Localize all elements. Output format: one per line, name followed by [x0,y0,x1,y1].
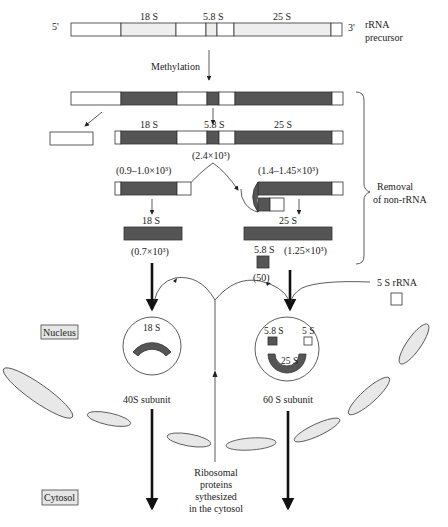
40s-subunit-label: 40S subunit [123,394,171,405]
segment-5-8s-label: 5.8 S [203,11,224,22]
three-prime-label: 3' [348,22,355,33]
40s-18s-label: 18 S [143,323,160,333]
protein-label-line2: proteins [200,479,232,490]
60s-5-8s-label: 5.8 S [264,326,284,336]
removed-leader-fragment [50,132,93,145]
intermediate-2-4k: 18 S 5.8 S 25 S (2.4×10³) [115,119,343,162]
removal-label-line1: Removal [377,181,413,192]
intermediate-size: (2.4×10³) [192,150,230,162]
mature-25s-size: (1.25×10³) [284,245,327,257]
5s-rrna-box [391,293,402,305]
60s-5s-label: 5 S [302,326,314,336]
5s-path-to-60s [291,282,370,302]
subunit-40s: 18 S [123,317,181,375]
mature-5-8s-rrna [257,256,269,268]
right-intermediate-hairpin [241,182,343,212]
mature-18s-rrna [124,227,182,240]
mature-18s-size: (0.7×10³) [131,246,169,258]
cytosol-label: Cytosol [44,492,75,503]
mature-25s-rrna [244,227,332,240]
removal-label-line2: of non-rRNA [373,194,427,205]
nuclear-envelope [0,320,433,451]
mature-18s-label: 18 S [142,215,160,226]
precursor-label-line2: precursor [365,32,403,43]
rrna-precursor: 5' 18 S 5.8 S 25 S 3' rRNA precursor [52,11,403,43]
methylated-precursor [71,92,343,105]
segment-25s-label: 25 S [273,11,291,22]
intermediate-18s-label: 18 S [140,119,158,130]
precursor-label-line1: rRNA [365,19,390,30]
protein-label-line3: sythesized [195,491,237,502]
segment-18s-label: 18 S [140,11,158,22]
mature-25s-label: 25 S [279,215,297,226]
60s-5-8s-rrna [268,337,277,345]
60s-5s-rrna [304,337,312,345]
cleavage-arrow [85,112,102,126]
left-intermediate-size: (0.9–1.0×10³) [116,165,171,177]
methylation-label: Methylation [151,61,200,72]
rrna-processing-diagram: 5' 18 S 5.8 S 25 S 3' rRNA precursor Met… [0,0,448,527]
split-arrow-right [213,163,238,190]
mature-5-8s-label: 5.8 S [254,244,275,255]
60s-25s-label: 25 S [281,356,298,366]
removal-brace [356,92,370,264]
left-intermediate-18s [115,182,191,195]
right-intermediate-size: (1.4–1.45×10³) [258,165,318,177]
intermediate-5-8s-label: 5.8 S [204,119,225,130]
protein-label-line1: Ribosomal [194,467,238,478]
nucleus-label: Nucleus [43,327,76,338]
60s-subunit-label: 60 S subunit [263,394,313,405]
mature-5-8s-size: (50) [253,272,270,284]
protein-path-to-60s [215,280,289,300]
protein-label-line4: in the cytosol [189,503,243,514]
intermediate-25s-label: 25 S [274,119,292,130]
five-prime-label: 5' [52,21,59,32]
5s-rrna-label: 5 S rRNA [377,277,418,288]
